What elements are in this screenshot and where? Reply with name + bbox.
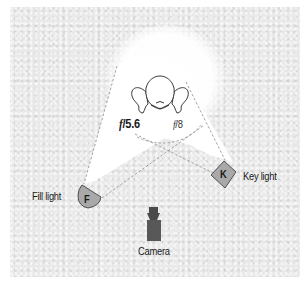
aperture-fill-side: f/5.6 xyxy=(119,116,140,132)
aperture-value: /8 xyxy=(175,118,182,130)
key-light-label: Key light xyxy=(243,170,277,182)
fill-light-label: Fill light xyxy=(32,190,61,202)
camera-label: Camera xyxy=(138,245,170,257)
lighting-diagram xyxy=(0,0,300,284)
aperture-value: /5.6 xyxy=(122,116,139,131)
key-light-letter: K xyxy=(220,168,227,180)
fill-light-letter: F xyxy=(84,193,89,205)
fill-light-fixture[interactable] xyxy=(78,185,101,208)
camera-icon[interactable] xyxy=(147,207,161,241)
aperture-key-side: f/8 xyxy=(173,118,183,130)
